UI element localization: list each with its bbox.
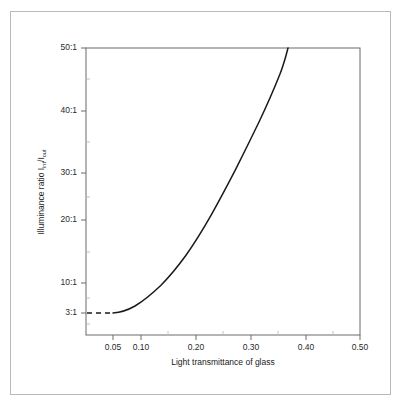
chart-canvas: 50:1 40:1 30:1 20:1 10:1 3:1 0.05 0.10 0…	[0, 0, 402, 410]
x-tick-label-040: 0.40	[286, 343, 326, 352]
x-axis-title: Light transmittance of glass	[86, 357, 360, 367]
x-tick-label-020: 0.20	[176, 343, 216, 352]
x-tick-label-030: 0.30	[231, 343, 271, 352]
x-axis-major-ticks	[113, 335, 360, 340]
x-tick-label-010: 0.10	[121, 343, 161, 352]
y-axis-title-sub-int: int	[41, 161, 47, 167]
y-axis-minor-ticks	[86, 79, 90, 324]
y-axis-title-wrap: Illuminance ratio Iint/Iout	[33, 48, 49, 335]
plot-area-border	[86, 48, 360, 335]
x-tick-label-050: 0.50	[340, 343, 380, 352]
y-axis-major-ticks	[81, 48, 86, 313]
y-axis-title-prefix: Illuminance ratio I	[36, 167, 46, 234]
x-axis-minor-ticks	[168, 331, 333, 335]
illuminance-ratio-curve	[113, 48, 288, 313]
y-axis-title: Illuminance ratio Iint/Iout	[36, 149, 46, 234]
y-axis-title-sub-out: out	[41, 149, 47, 157]
figure-container: 50:1 40:1 30:1 20:1 10:1 3:1 0.05 0.10 0…	[0, 0, 402, 410]
